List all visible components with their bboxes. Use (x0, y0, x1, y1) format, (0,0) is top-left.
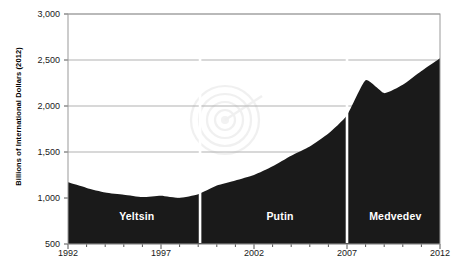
x-tick-label: 2012 (430, 248, 450, 258)
watermark-spiral-icon (191, 86, 262, 154)
x-tick-label: 2002 (244, 248, 264, 258)
y-tick-label: 3,000 (0, 9, 60, 19)
y-tick-label: 500 (0, 239, 60, 249)
chart-container: Billions of International Dollars (2012)… (0, 0, 455, 273)
era-label-medvedev: Medvedev (369, 210, 421, 222)
y-tick-label: 2,500 (0, 55, 60, 65)
x-tick-label: 1997 (151, 248, 171, 258)
y-tick-label: 1,500 (0, 147, 60, 157)
era-label-yeltsin: Yeltsin (119, 210, 154, 222)
era-label-putin: Putin (266, 210, 293, 222)
y-axis-ticks (64, 14, 68, 244)
x-tick-label: 1992 (58, 248, 78, 258)
x-tick-label: 2007 (337, 248, 357, 258)
chart-plot-area (0, 0, 455, 273)
y-tick-label: 1,000 (0, 193, 60, 203)
y-tick-label: 2,000 (0, 101, 60, 111)
